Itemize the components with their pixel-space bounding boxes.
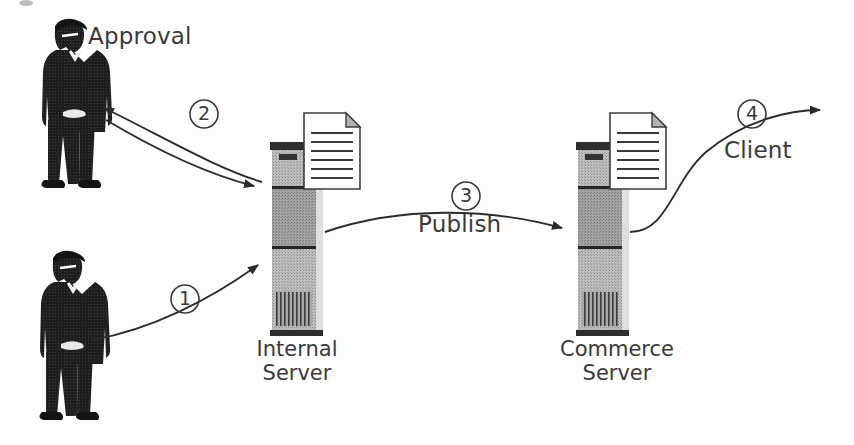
- label-internal-server: Internal Server: [232, 338, 362, 385]
- label-commerce-server-line2: Server: [537, 362, 697, 386]
- label-internal-server-line1: Internal: [257, 337, 338, 361]
- person-icon-author: [39, 251, 110, 420]
- step-number-3: 3: [456, 186, 476, 205]
- step-number-4: 4: [742, 104, 762, 123]
- step-number-1: 1: [175, 289, 195, 308]
- scan-artifact: [19, 0, 33, 6]
- label-commerce-server: Commerce Server: [537, 338, 697, 385]
- diagram-canvas: Approval Publish Client Internal Server …: [0, 0, 854, 445]
- label-publish: Publish: [418, 212, 501, 236]
- document-icon-commerce: [610, 113, 666, 189]
- arrow-2-to-approver-path: [104, 108, 262, 182]
- label-client: Client: [724, 138, 792, 162]
- label-commerce-server-line1: Commerce: [560, 337, 674, 361]
- step-number-2: 2: [194, 104, 214, 123]
- arrow-2-to-server-path: [106, 120, 254, 186]
- label-approval: Approval: [88, 24, 192, 48]
- document-icon-internal: [304, 113, 360, 189]
- label-internal-server-line2: Server: [232, 362, 362, 386]
